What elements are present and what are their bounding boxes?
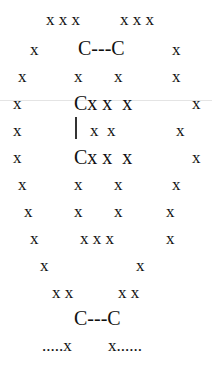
diagram-glyph-r7-1: x [74,176,83,193]
diagram-glyph-r7-0: x [18,176,27,193]
diagram-glyph-r9-1: x x x [80,230,114,247]
diagram-glyph-r2-1: C---C [78,38,125,58]
diagram-glyph-r6-0: x [13,149,22,166]
diagram-glyph-r4-0: x [13,95,22,112]
diagram-glyph-r10-1: x [136,257,145,274]
diagram-glyph-r12-0: C---C [74,308,121,328]
diagram-glyph-r13-1: x...... [108,337,142,354]
diagram-glyph-r7-2: x [114,176,123,193]
diagram-glyph-r5-0: x [13,122,22,139]
diagram-glyph-r4-1: Cx x x [74,93,132,113]
diagram-glyph-r9-2: x [166,230,175,247]
diagram-glyph-r2-0: x [30,41,39,58]
diagram-glyph-r8-3: x [166,203,175,220]
diagram-glyph-r1-0: x x x [46,11,80,28]
diagram-glyph-r8-2: x [114,203,123,220]
diagram-glyph-r3-1: x [74,68,83,85]
diagram-glyph-r8-0: x [24,203,33,220]
diagram-glyph-r11-0: x x [52,284,73,301]
diagram-glyph-r9-0: x [30,230,39,247]
diagram-glyph-r8-1: x [74,203,83,220]
diagram-glyph-r3-2: x [114,68,123,85]
diagram-glyph-r6-2: x [192,149,201,166]
diagram-glyph-r1-1: x x x [120,11,154,28]
diagram-glyph-r7-3: x [172,176,181,193]
diagram-glyph-r2-2: x [172,41,181,58]
diagram-glyph-r4-2: x [192,95,201,112]
diagram-glyph-r5-1: x x [90,122,116,139]
diagram-glyph-r5-2: x [176,122,185,139]
diagram-glyph-r6-1: Cx x x [74,147,132,167]
vertical-bond [75,117,77,139]
diagram-glyph-r3-0: x [18,68,27,85]
diagram-glyph-r13-0: .....x [42,337,72,354]
diagram-glyph-r10-0: x [40,257,49,274]
diagram-glyph-r11-1: x x [118,284,139,301]
diagram-glyph-r3-3: x [172,68,181,85]
